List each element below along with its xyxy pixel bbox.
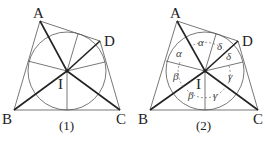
caption-2: (2) <box>196 118 211 133</box>
figure-1: A D I B C (1) <box>2 5 126 133</box>
figure-2: α δ α δ β γ β γ A D I B C (2) <box>138 5 263 133</box>
label-d: D <box>104 33 115 49</box>
label-i: I <box>58 76 63 92</box>
label-i: I <box>196 76 201 92</box>
angle-beta-1: β <box>172 70 179 82</box>
point-i <box>204 70 207 73</box>
angle-alpha-1: α <box>198 36 204 48</box>
radius-to-ab <box>28 61 67 71</box>
angle-gamma-2: γ <box>213 89 218 101</box>
segment-id <box>67 41 100 71</box>
angle-delta-1: δ <box>217 40 223 52</box>
label-a: A <box>33 5 44 21</box>
label-d: D <box>242 33 253 49</box>
angle-delta-2: δ <box>226 50 232 62</box>
label-b: B <box>138 111 148 127</box>
diagram-canvas: A D I B C (1) α δ α δ β γ β γ A D I B <box>0 0 265 143</box>
segment-ic <box>67 71 120 110</box>
angle-alpha-2: α <box>176 47 182 59</box>
point-i <box>66 70 69 73</box>
caption-1: (1) <box>59 118 74 133</box>
angle-gamma-1: γ <box>228 70 233 82</box>
label-c: C <box>253 111 263 127</box>
label-a: A <box>170 5 181 21</box>
angle-arc-left <box>178 62 184 88</box>
label-c: C <box>116 111 126 127</box>
label-b: B <box>2 111 12 127</box>
radius-to-ab <box>166 61 205 71</box>
angle-beta-2: β <box>187 89 194 101</box>
